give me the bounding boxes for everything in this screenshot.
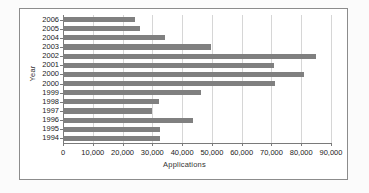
gridline-50000 (212, 15, 213, 143)
y-tick-mark (60, 47, 63, 48)
y-tick-mark (60, 84, 63, 85)
x-tick-mark (63, 143, 64, 146)
x-tick-label: 80,000 (290, 148, 313, 157)
bar (63, 118, 193, 123)
y-tick-label: 2003 (42, 43, 59, 51)
gridline-40000 (182, 15, 183, 143)
x-tick-mark (93, 143, 94, 146)
y-tick-mark (60, 93, 63, 94)
gridline-20000 (123, 15, 124, 143)
gridline-90000 (331, 15, 332, 143)
y-tick-mark (60, 129, 63, 130)
y-tick-mark (60, 56, 63, 57)
bar (63, 63, 274, 68)
bar (63, 108, 152, 113)
y-tick-label: 1998 (42, 98, 59, 106)
x-tick-label: 70,000 (260, 148, 283, 157)
y-tick-mark (60, 20, 63, 21)
x-tick-label: 0 (61, 148, 65, 157)
x-tick-label: 20,000 (111, 148, 134, 157)
bar (63, 90, 201, 95)
figure-canvas: Year 20062005200420032002200120002000199… (0, 0, 369, 193)
gridline-70000 (271, 15, 272, 143)
y-tick-label: 2001 (42, 61, 59, 69)
y-tick-label: 1996 (42, 116, 59, 124)
x-axis-title: Applications (20, 160, 349, 169)
chart-frame: Year 20062005200420032002200120002000199… (19, 8, 348, 180)
x-tick-mark (271, 143, 272, 146)
gridline-80000 (301, 15, 302, 143)
x-tick-label: 30,000 (141, 148, 164, 157)
y-tick-mark (60, 120, 63, 121)
x-tick-mark (212, 143, 213, 146)
y-tick-mark (60, 38, 63, 39)
bar (63, 35, 165, 40)
y-tick-mark (60, 65, 63, 66)
gridline-10000 (93, 15, 94, 143)
y-tick-mark (60, 74, 63, 75)
bar (63, 72, 304, 77)
y-tick-label: 2000 (42, 70, 59, 78)
bar (63, 54, 316, 59)
y-tick-mark (60, 138, 63, 139)
gridline-60000 (242, 15, 243, 143)
bar (63, 99, 159, 104)
y-tick-mark (60, 102, 63, 103)
plot-area: 2006200520042003200220012000200019991998… (63, 15, 331, 143)
y-tick-mark (60, 111, 63, 112)
x-tick-mark (301, 143, 302, 146)
x-tick-label: 60,000 (230, 148, 253, 157)
x-tick-label: 10,000 (81, 148, 104, 157)
x-tick-mark (331, 143, 332, 146)
bar (63, 127, 160, 132)
y-tick-mark (60, 29, 63, 30)
bar (63, 17, 135, 22)
x-tick-label: 40,000 (171, 148, 194, 157)
x-tick-mark (242, 143, 243, 146)
x-tick-mark (152, 143, 153, 146)
y-tick-label: 2005 (42, 25, 59, 33)
bar (63, 81, 275, 86)
y-tick-label: 1994 (42, 134, 59, 142)
gridline-0 (63, 15, 64, 143)
y-tick-label: 1999 (42, 89, 59, 97)
bar (63, 26, 140, 31)
bar (63, 136, 160, 141)
gridline-30000 (152, 15, 153, 143)
y-tick-label: 2006 (42, 16, 59, 24)
x-tick-label: 90,000 (320, 148, 343, 157)
x-tick-mark (123, 143, 124, 146)
y-axis-title: Year (28, 44, 37, 104)
y-tick-label: 1995 (42, 125, 59, 133)
y-tick-label: 2002 (42, 52, 59, 60)
y-tick-label: 2000 (42, 80, 59, 88)
x-tick-label: 50,000 (200, 148, 223, 157)
y-tick-label: 2004 (42, 34, 59, 42)
x-axis-line (63, 143, 331, 144)
y-tick-label: 1997 (42, 107, 59, 115)
bar (63, 44, 211, 49)
x-tick-mark (182, 143, 183, 146)
